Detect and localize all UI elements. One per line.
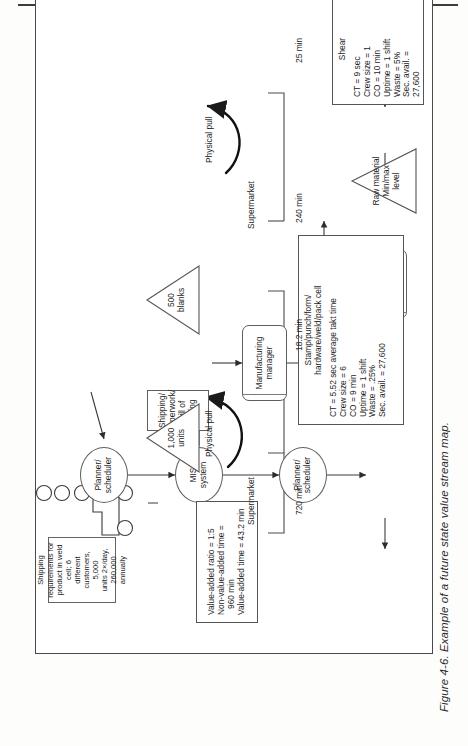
book-page: Future State Map Planner/ scheduler MIS …: [0, 0, 468, 746]
weld-cell-header: Stamp/punch/form/ hardware/weld/pack cel…: [304, 243, 324, 417]
rr-tab: [242, 394, 287, 395]
physical-pull-label-bottom: Physical pull: [204, 116, 214, 163]
raw-material-label: Raw material Min/max level: [372, 146, 401, 216]
timeline-label-0: 720 min: [294, 485, 304, 515]
supermarket-label-top: Supermarket: [246, 477, 256, 525]
blanks-inventory-label: 500 blanks: [167, 263, 186, 337]
blanks-inventory-triangle: 500 blanks: [144, 263, 202, 337]
timeline-label-1: 18.2 min: [294, 319, 304, 351]
figure-caption: Figure 4-6. Example of a future state va…: [438, 72, 450, 712]
supermarket-label-bottom: Supermarket: [246, 181, 256, 229]
physical-pull-label-top: Physical pull: [204, 410, 214, 457]
figure-rotation-wrapper: Future State Map Planner/ scheduler MIS …: [0, 0, 468, 746]
value-stream-map-figure: Future State Map Planner/ scheduler MIS …: [35, 0, 433, 654]
manufacturing-manager-node[interactable]: Manufacturing manager: [242, 325, 287, 401]
planner-scheduler-top-node[interactable]: Planner/ scheduler: [80, 447, 128, 503]
finished-inventory-label: 1,000 units: [167, 401, 186, 475]
shipping-requirements-note: Shipping requirements for product in wel…: [48, 537, 116, 603]
finished-inventory-triangle: 1,000 units: [144, 401, 202, 475]
shear-header: Shear: [338, 1, 348, 97]
shear-process-box: Shear CT = 9 sec Crew size = 1 CO = 10 m…: [332, 0, 424, 105]
weld-cell-line: Sec. avail. = 27,600: [378, 243, 388, 417]
shear-line: 27,600: [412, 1, 422, 97]
manufacturing-manager-label: Manufacturing manager: [255, 336, 275, 389]
raw-material-triangle: Raw material Min/max level: [348, 146, 420, 216]
timeline-label-2: 240 min: [294, 193, 304, 223]
weld-cell-process-box: Stamp/punch/form/ hardware/weld/pack cel…: [298, 235, 404, 425]
timeline-label-3: 25 min: [294, 38, 304, 63]
